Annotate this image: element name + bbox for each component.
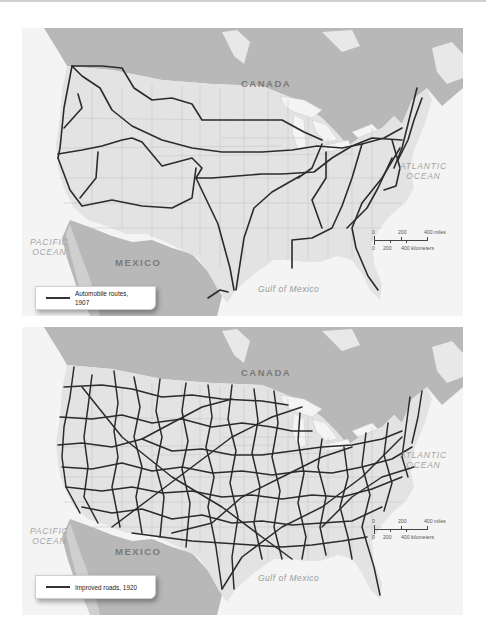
scale-km-400: 400 kilometers <box>401 534 434 540</box>
pacific-line2: OCEAN <box>30 247 69 257</box>
scale-miles-200: 200 <box>398 229 407 235</box>
scale-km-0: 0 <box>372 534 375 540</box>
scale-km-200: 200 <box>383 245 392 251</box>
atlantic-line1: ATLANTIC <box>400 450 447 460</box>
map-1907-graphic <box>22 28 463 316</box>
legend: Automobile routes, 1907 <box>35 286 156 310</box>
scale-miles-400: 400 miles <box>424 518 446 524</box>
pacific-line2: OCEAN <box>30 536 69 546</box>
label-gulf-of-mexico: Gulf of Mexico <box>258 573 319 583</box>
scale-miles-0: 0 <box>372 518 375 524</box>
pacific-line1: PACIFIC <box>30 526 69 536</box>
legend: Improved roads, 1920 <box>35 575 156 599</box>
label-canada: CANADA <box>241 78 291 89</box>
map-improved-roads-1920: CANADA MEXICO ATLANTIC OCEAN PACIFIC OCE… <box>22 327 463 615</box>
legend-line-swatch <box>46 297 70 299</box>
scale-bar: 0 200 400 miles 0 200 400 kilometers <box>372 518 452 546</box>
legend-line-swatch <box>46 586 70 588</box>
atlantic-line2: OCEAN <box>400 171 447 181</box>
map-automobile-routes-1907: CANADA MEXICO ATLANTIC OCEAN PACIFIC OCE… <box>22 28 463 316</box>
pacific-line1: PACIFIC <box>30 237 69 247</box>
label-pacific-ocean: PACIFIC OCEAN <box>30 237 69 257</box>
scale-bar: 0 200 400 miles 0 200 400 kilometers <box>372 229 452 257</box>
label-atlantic-ocean: ATLANTIC OCEAN <box>400 450 447 470</box>
legend-label: Automobile routes, 1907 <box>75 289 143 307</box>
scale-miles-0: 0 <box>372 229 375 235</box>
scale-miles-200: 200 <box>398 518 407 524</box>
scale-km-200: 200 <box>383 534 392 540</box>
label-mexico: MEXICO <box>115 257 161 268</box>
scale-miles-400: 400 miles <box>424 229 446 235</box>
legend-label: Improved roads, 1920 <box>75 583 137 592</box>
label-gulf-of-mexico: Gulf of Mexico <box>258 284 319 294</box>
top-rule <box>0 0 486 2</box>
scale-km-400: 400 kilometers <box>401 245 434 251</box>
atlantic-line2: OCEAN <box>400 460 447 470</box>
atlantic-line1: ATLANTIC <box>400 161 447 171</box>
scale-km-0: 0 <box>372 245 375 251</box>
label-atlantic-ocean: ATLANTIC OCEAN <box>400 161 447 181</box>
label-pacific-ocean: PACIFIC OCEAN <box>30 526 69 546</box>
label-canada: CANADA <box>241 367 291 378</box>
label-mexico: MEXICO <box>115 546 161 557</box>
